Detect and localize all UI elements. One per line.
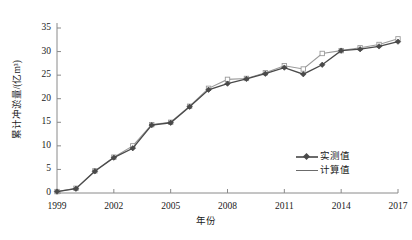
y-tick-label: 0: [17, 188, 51, 198]
x-tick-label: 1999: [35, 202, 79, 212]
y-tick-label: 5: [17, 164, 51, 174]
legend-item-measured: 实测值: [296, 150, 350, 164]
y-tick-label: 25: [17, 70, 51, 80]
x-tick-label: 2017: [376, 202, 412, 212]
y-tick-label: 20: [17, 94, 51, 104]
legend-label-measured: 实测值: [320, 150, 350, 164]
legend-label-calculated: 计算值: [320, 164, 350, 178]
legend-marker-diamond-icon: [296, 152, 318, 162]
chart-container: 累计冲淤量/(亿m³) 年份 实测值 计算值 05101520253035199…: [0, 0, 412, 240]
x-tick-label: 2014: [319, 202, 363, 212]
y-tick-label: 30: [17, 47, 51, 57]
x-tick-label: 2002: [92, 202, 136, 212]
chart-legend: 实测值 计算值: [296, 150, 350, 178]
x-tick-label: 2008: [206, 202, 250, 212]
legend-item-calculated: 计算值: [296, 164, 350, 178]
y-tick-label: 15: [17, 117, 51, 127]
legend-marker-line-icon: [296, 166, 318, 176]
y-tick-label: 35: [17, 23, 51, 33]
x-tick-label: 2011: [262, 202, 306, 212]
x-tick-label: 2005: [149, 202, 193, 212]
x-axis-title: 年份: [0, 217, 412, 227]
y-tick-label: 10: [17, 141, 51, 151]
